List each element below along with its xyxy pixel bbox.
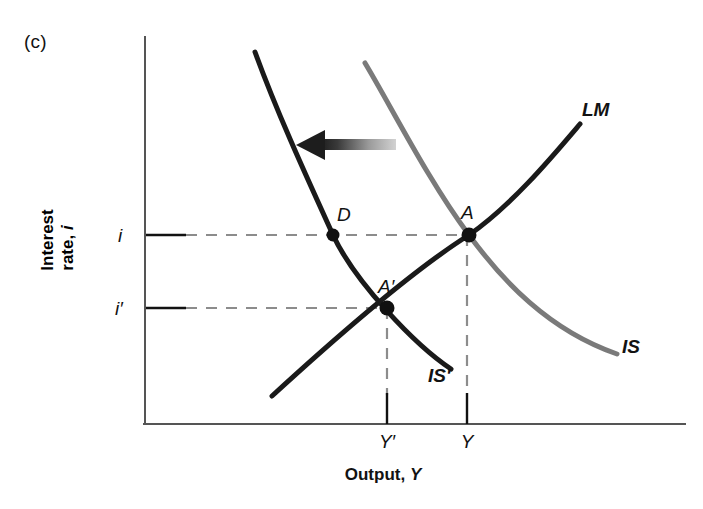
point-marker-a[interactable] [462, 228, 477, 243]
y-tick-label-i: i [118, 226, 122, 245]
chart-canvas [0, 0, 703, 509]
point-label-d: D [337, 205, 351, 224]
point-marker-a-prime[interactable] [380, 301, 395, 316]
axis-lines [143, 36, 686, 425]
panel-label: (c) [24, 32, 47, 51]
x-tick-label-y-prime: Y′ [379, 432, 395, 451]
curve-label-is: IS [622, 337, 640, 356]
x-axis-title: Output, Y [345, 466, 422, 483]
is-lm-figure: (c) Interest rate, i Output, Y i i′ Y′ Y… [0, 0, 703, 509]
y-axis-title-wrapper: Interest rate, i [38, 140, 78, 340]
shift-arrow-shaft [318, 139, 396, 150]
y-axis-title-text: Interest rate, [38, 209, 77, 270]
point-label-a: A [461, 203, 474, 222]
point-label-a-prime: A′ [378, 277, 394, 296]
point-markers [327, 228, 477, 316]
point-marker-d[interactable] [327, 229, 340, 242]
y-tick-label-i-prime: i′ [115, 299, 123, 318]
x-axis-title-text: Output, [345, 465, 410, 484]
x-axis-title-variable: Y [410, 465, 421, 484]
curve-label-lm: LM [582, 100, 609, 119]
y-axis-title: Interest rate, i [38, 209, 78, 270]
x-tick-label-y: Y [461, 432, 474, 451]
is-curve[interactable] [365, 63, 617, 354]
curve-label-is-prime: IS′ [428, 366, 451, 385]
shift-arrow-head [296, 130, 325, 160]
shift-arrow [296, 130, 396, 160]
y-axis-title-variable: i [58, 225, 77, 230]
